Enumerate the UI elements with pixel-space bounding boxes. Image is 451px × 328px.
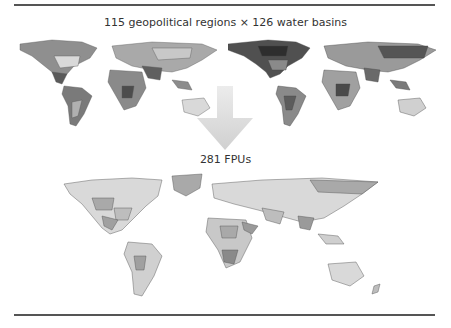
top-label: 115 geopolitical regions × 126 water bas… <box>0 16 451 29</box>
geopolitical-regions-map <box>12 36 222 131</box>
bottom-rule <box>14 314 435 316</box>
fpu-map <box>62 172 392 307</box>
top-rule <box>14 4 435 6</box>
water-basins-map <box>228 36 438 131</box>
bottom-label: 281 FPUs <box>0 153 451 166</box>
down-arrow-icon <box>195 86 255 154</box>
